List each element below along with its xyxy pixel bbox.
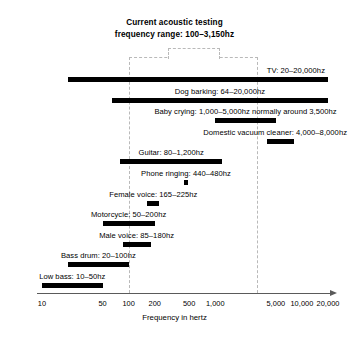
frequency-range-bar <box>147 201 159 206</box>
bar-row-label: Guitar: 80–1,200hz <box>138 148 204 157</box>
bar-row: Dog barking: 64–20,000hz <box>0 87 349 109</box>
x-axis-tick-label: 20,000 <box>317 299 340 308</box>
x-axis-tick-label: 50 <box>98 299 106 308</box>
bar-row-label: Low bass: 10–50hz <box>39 272 105 281</box>
chart-title-line-2: frequency range: 100–3,150hz <box>0 29 349 41</box>
frequency-range-bar <box>267 139 293 144</box>
frequency-range-bar <box>123 242 151 247</box>
bar-row-label: Motorcycle: 50–200hz <box>91 210 166 219</box>
bar-row: TV: 20–20,000hz <box>0 66 349 88</box>
testing-range-callout-notch <box>168 48 220 59</box>
frequency-range-bar <box>68 262 129 267</box>
x-axis-caption: Frequency in hertz <box>0 313 349 322</box>
bar-row-label: Phone ringing: 440–480hz <box>141 169 231 178</box>
x-axis-tick-label: 500 <box>183 299 195 308</box>
bar-row: Guitar: 80–1,200hz <box>0 148 349 170</box>
chart-title: Current acoustic testing frequency range… <box>0 17 349 40</box>
acoustic-frequency-range-chart: Current acoustic testing frequency range… <box>0 0 349 343</box>
bar-row: Baby crying: 1,000–5,000hz normally arou… <box>0 107 349 129</box>
bar-row-label: Dog barking: 64–20,000hz <box>175 87 265 96</box>
frequency-range-bar <box>215 118 276 123</box>
bar-row: Female voice: 165–225hz <box>0 190 349 212</box>
chart-title-line-1: Current acoustic testing <box>0 17 349 29</box>
bar-row: Domestic vacuum cleaner: 4,000–8,000hz <box>0 128 349 150</box>
frequency-range-bar <box>103 221 155 226</box>
bar-row: Motorcycle: 50–200hz <box>0 210 349 232</box>
x-axis-tick-label: 200 <box>148 299 160 308</box>
bar-row: Bass drum: 20–100hz <box>0 251 349 273</box>
bar-row: Phone ringing: 440–480hz <box>0 169 349 191</box>
x-axis-line <box>37 293 330 294</box>
bar-row-label: Female voice: 165–225hz <box>109 190 197 199</box>
bar-row-label: Domestic vacuum cleaner: 4,000–8,000hz <box>203 128 347 137</box>
x-axis-arrow-icon <box>330 290 337 296</box>
bar-row: Low bass: 10–50hz <box>0 272 349 294</box>
x-axis-tick-label: 1,000 <box>206 299 225 308</box>
x-axis-tick-label: 5,000 <box>266 299 285 308</box>
frequency-range-bar <box>112 98 328 103</box>
frequency-range-bar <box>120 159 222 164</box>
frequency-range-bar <box>42 283 103 288</box>
x-axis-tick-label: 10,000 <box>290 299 313 308</box>
bar-row-label: Male voice: 85–180hz <box>99 231 174 240</box>
x-axis-tick-label: 100 <box>122 299 134 308</box>
bar-row-label: Baby crying: 1,000–5,000hz normally arou… <box>154 107 336 116</box>
frequency-range-bar <box>184 180 187 185</box>
bar-row-label: Bass drum: 20–100hz <box>61 251 136 260</box>
bar-row-label: TV: 20–20,000hz <box>267 66 325 75</box>
x-axis-tick-label: 10 <box>38 299 46 308</box>
bar-row: Male voice: 85–180hz <box>0 231 349 253</box>
frequency-range-bar <box>68 77 328 82</box>
